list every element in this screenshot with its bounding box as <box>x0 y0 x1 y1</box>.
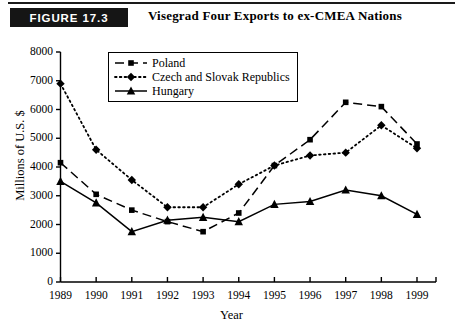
x-axis-title: Year <box>0 308 463 323</box>
y-axis-title: Millions of U.S. $ <box>13 76 28 236</box>
chart-container: 010002000300040005000600070008000 198919… <box>0 30 463 331</box>
x-tick-label: 1999 <box>395 290 439 302</box>
y-tick-label: 1000 <box>13 247 53 259</box>
legend-marker-triangle-icon <box>114 84 148 98</box>
figure-title: Visegrad Four Exports to ex-CMEA Nations <box>148 8 402 24</box>
legend-label: Hungary <box>148 85 194 97</box>
figure-number-badge: FIGURE 17.3 <box>10 8 128 27</box>
chart-series <box>56 79 421 235</box>
chart-legend: PolandCzech and Slovak RepublicsHungary <box>108 52 298 102</box>
legend-label: Poland <box>148 57 185 69</box>
legend-item-poland: Poland <box>114 56 290 70</box>
header-divider <box>8 2 455 4</box>
y-tick-label: 8000 <box>13 46 53 58</box>
legend-marker-diamond-icon <box>114 70 148 84</box>
series-poland <box>58 100 420 235</box>
legend-item-hungary: Hungary <box>114 84 290 98</box>
legend-marker-square-icon <box>114 56 148 70</box>
legend-label: Czech and Slovak Republics <box>148 71 290 83</box>
figure-header: FIGURE 17.3 Visegrad Four Exports to ex-… <box>0 0 463 30</box>
legend-item-czech-and-slovak-republics: Czech and Slovak Republics <box>114 70 290 84</box>
y-tick-label: 0 <box>13 276 53 288</box>
